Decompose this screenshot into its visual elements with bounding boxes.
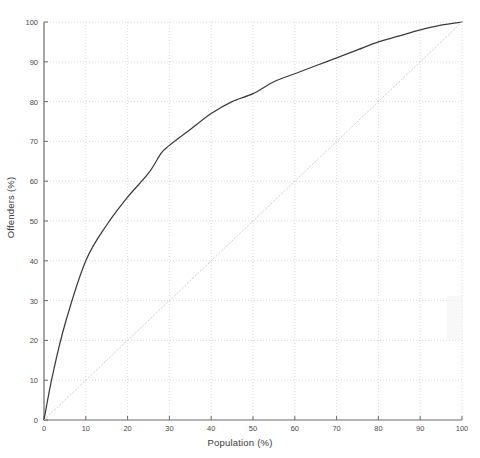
x-tick-label: 0 — [29, 424, 59, 433]
x-tick-label: 60 — [280, 424, 310, 433]
y-tick-label: 40 — [12, 257, 38, 266]
y-tick-label: 70 — [12, 137, 38, 146]
data-series-layer — [44, 22, 462, 420]
plot-canvas — [0, 0, 480, 458]
y-tick-label: 0 — [12, 416, 38, 425]
x-tick-label: 50 — [238, 424, 268, 433]
y-tick-label: 100 — [12, 18, 38, 27]
y-tick-label: 10 — [12, 376, 38, 385]
x-tick-label: 90 — [405, 424, 435, 433]
y-tick-label: 50 — [12, 217, 38, 226]
x-tick-label: 70 — [322, 424, 352, 433]
y-tick-label: 80 — [12, 98, 38, 107]
lorenz-curve-chart: Population (%) Offenders (%) 01020304050… — [0, 0, 480, 458]
x-tick-label: 40 — [196, 424, 226, 433]
x-tick-label: 10 — [71, 424, 101, 433]
x-tick-label: 80 — [363, 424, 393, 433]
x-tick-label: 100 — [447, 424, 477, 433]
y-tick-label: 30 — [12, 297, 38, 306]
series-line-1 — [44, 22, 462, 420]
y-tick-label: 20 — [12, 336, 38, 345]
y-tick-label: 60 — [12, 177, 38, 186]
x-tick-label: 30 — [154, 424, 184, 433]
x-axis-title: Population (%) — [0, 437, 480, 448]
y-tick-label: 90 — [12, 58, 38, 67]
x-tick-label: 20 — [113, 424, 143, 433]
